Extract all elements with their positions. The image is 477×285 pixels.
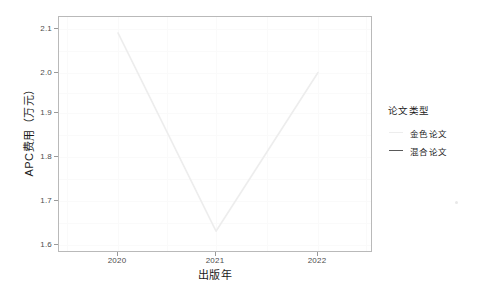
y-tick-mark-1.9 [54, 112, 58, 113]
legend-key-line-icon-hybrid [388, 144, 404, 158]
chart-root: 2.1 2.0 1.9 1.8 1.7 1.6 2020 2021 2022 出… [0, 0, 477, 285]
y-tick-mark-1.7 [54, 200, 58, 201]
series-line-gold [118, 33, 318, 231]
legend-key-line-icon-gold [388, 126, 404, 140]
image-speck [455, 201, 458, 204]
x-tick-label-2022: 2022 [294, 256, 340, 265]
y-tick-mark-1.6 [54, 244, 58, 245]
plot-area [59, 17, 371, 251]
y-tick-mark-2.0 [54, 72, 58, 73]
y-tick-label-2.1: 2.1 [18, 24, 52, 33]
legend-label-gold: 金色论文 [410, 127, 447, 139]
legend-label-hybrid: 混合论文 [410, 145, 447, 157]
legend-item-gold[interactable]: 金色论文 [388, 125, 474, 141]
series-lines [59, 17, 371, 251]
x-axis-title: 出版年 [58, 266, 372, 282]
x-tick-label-2020: 2020 [94, 256, 140, 265]
x-tick-label-2021: 2021 [192, 256, 238, 265]
y-tick-mark-2.1 [54, 28, 58, 29]
y-tick-label-1.6: 1.6 [18, 240, 52, 249]
legend-title: 论文类型 [388, 103, 474, 117]
y-axis-title: APC费用（万元） [20, 40, 36, 220]
y-tick-mark-1.8 [54, 156, 58, 157]
legend: 论文类型 金色论文 混合论文 [388, 103, 474, 161]
legend-item-hybrid[interactable]: 混合论文 [388, 143, 474, 159]
plot-panel [58, 16, 372, 252]
